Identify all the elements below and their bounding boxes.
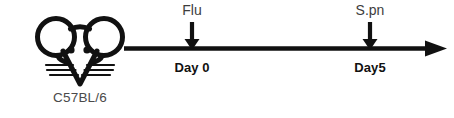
experiment-timeline-figure: C57BL/6 Flu Day 0 S.pn Day5 [0,0,454,118]
mouse-snout-icon [63,51,97,84]
event-label-flu: Flu [162,2,222,18]
timeline-axis [120,18,450,63]
strain-label: C57BL/6 [22,90,138,105]
mouse-head-icon-svg [30,12,130,92]
mouse-whiskers-icon [46,65,114,75]
timeline-right-arrow-icon [425,41,447,57]
mouse-right-eye-icon [83,46,90,53]
mouse-head-icon [30,12,130,92]
event-day-label-day0: Day 0 [162,60,222,75]
mouse-right-ear-icon [86,19,123,56]
spn-event-marker [363,22,378,50]
event-day-label-day5: Day5 [340,60,400,75]
mouse-left-eye-icon [67,46,74,53]
mouse-forehead-icon [71,27,90,29]
event-label-spn: S.pn [340,2,400,18]
flu-event-marker [185,22,200,50]
